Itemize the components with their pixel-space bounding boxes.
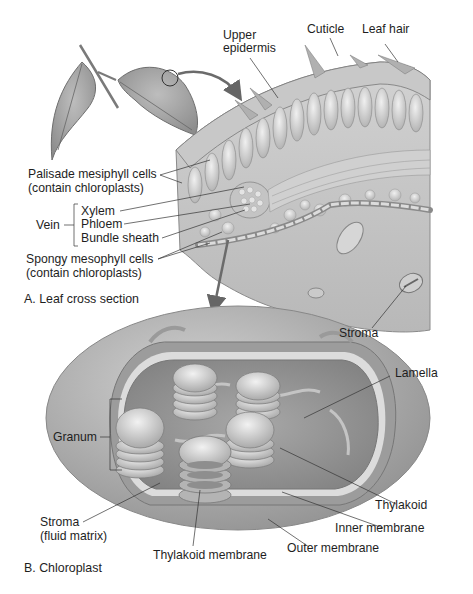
label-stroma-fluid-line1: Stroma — [40, 515, 79, 529]
label-thylakoid: Thylakoid — [375, 498, 427, 512]
label-phloem: Phloem — [81, 217, 122, 231]
label-granum: Granum — [53, 430, 97, 444]
label-palisade-line2: (contain chloroplasts) — [28, 181, 144, 195]
label-vein: Vein — [36, 218, 60, 232]
label-upper-epidermis-line1: Upper — [223, 28, 256, 42]
label-thylakoid-membrane: Thylakoid membrane — [153, 548, 267, 562]
label-palisade-line1: Palisade mesiphyll cells — [28, 167, 157, 181]
label-cuticle: Cuticle — [307, 22, 344, 36]
label-upper-epidermis-line2: epidermis — [223, 41, 276, 55]
label-inner-membrane: Inner membrane — [335, 521, 424, 535]
label-lamella: Lamella — [395, 366, 438, 380]
label-stroma-fluid-line2: (fluid matrix) — [40, 529, 107, 543]
label-outer-membrane: Outer membrane — [287, 541, 379, 555]
caption-leaf-cross-section: A. Leaf cross section — [24, 292, 139, 306]
label-leaf-hair: Leaf hair — [362, 22, 409, 36]
label-bundle-sheath: Bundle sheath — [81, 231, 159, 245]
label-stroma-leaf: Stroma — [339, 326, 378, 340]
caption-chloroplast: B. Chloroplast — [24, 561, 102, 575]
label-spongy-line2: (contain chloroplasts) — [26, 266, 142, 280]
leaf-cross-section-illustration — [176, 45, 430, 332]
label-xylem: Xylem — [81, 204, 115, 218]
label-spongy-line1: Spongy mesophyll cells — [26, 252, 153, 266]
